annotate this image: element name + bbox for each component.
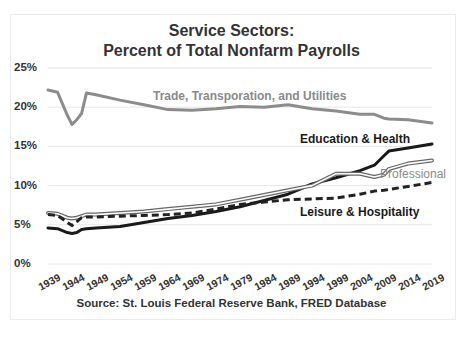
series-label-education: Education & Health <box>300 132 410 146</box>
source-note: Source: St. Louis Federal Reserve Bank, … <box>0 297 463 309</box>
series-label-professional: Professional <box>380 167 446 181</box>
series-line-education-health <box>48 144 432 233</box>
series-label-trade: Trade, Transporation, and Utilities <box>153 89 346 103</box>
series-label-leisure: Leisure & Hospitality <box>300 205 419 219</box>
